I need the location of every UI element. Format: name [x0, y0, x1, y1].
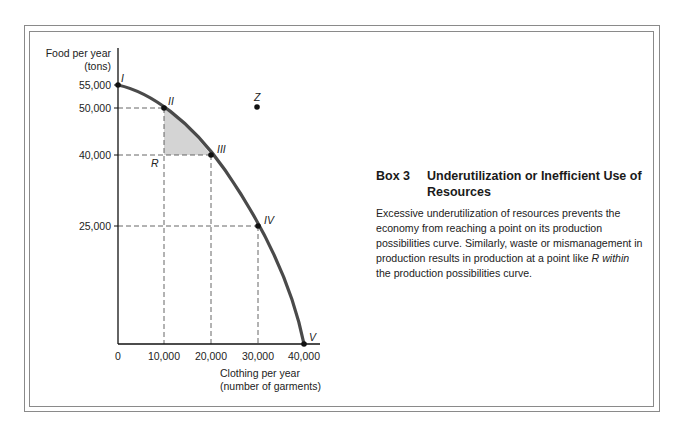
- point-IV-label: IV: [264, 214, 275, 226]
- point-II-marker: [161, 105, 167, 111]
- x-tick-40000: 40,000: [288, 350, 320, 362]
- x-axis-label-line2: (number of garments): [220, 380, 321, 392]
- x-tick-10000: 10,000: [148, 350, 180, 362]
- x-tick-0: 0: [115, 350, 121, 362]
- point-II-label: II: [168, 95, 174, 107]
- box-caption: Box 3 Underutilization or Inefficient Us…: [376, 168, 646, 281]
- box-heading: Underutilization or Inefficient Use of R…: [427, 168, 646, 200]
- point-Z-label: Z: [253, 91, 261, 103]
- x-tick-20000: 20,000: [195, 350, 227, 362]
- point-V-label: V: [309, 331, 317, 343]
- point-III-label: III: [217, 143, 226, 155]
- shaded-inefficiency-region: [164, 108, 211, 155]
- box-body: Excessive underutilization of resources …: [376, 206, 646, 281]
- box-number: Box 3: [376, 168, 427, 200]
- box-body-text-2: the production possibilities curve.: [376, 267, 532, 279]
- point-IV-marker: [255, 223, 261, 229]
- point-R-label: R: [151, 157, 159, 169]
- y-tick-40000: 40,000: [79, 149, 111, 161]
- y-tick-50000: 50,000: [79, 102, 111, 114]
- y-tick-25000: 25,000: [79, 220, 111, 232]
- y-tick-55000: 55,000: [79, 79, 111, 91]
- y-axis-label-line2: (tons): [84, 60, 111, 72]
- point-III-marker: [208, 152, 214, 158]
- point-Z-marker: [254, 104, 260, 110]
- x-axis-label-line1: Clothing per year: [220, 367, 300, 379]
- box-title: Box 3 Underutilization or Inefficient Us…: [376, 168, 646, 200]
- box-body-R: R: [592, 252, 600, 264]
- point-V-marker: [301, 341, 307, 347]
- x-tick-30000: 30,000: [242, 350, 274, 362]
- point-I-label: I: [121, 72, 124, 84]
- y-axis-label-line1: Food per year: [46, 47, 112, 59]
- box-body-within: within: [602, 252, 629, 264]
- point-I-marker: [115, 82, 121, 88]
